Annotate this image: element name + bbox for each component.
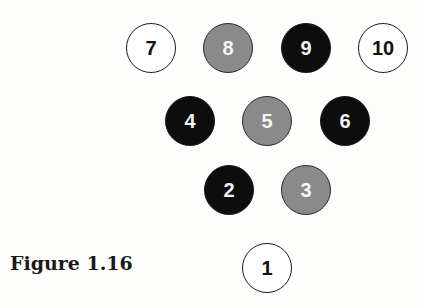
pin-label: 4: [184, 110, 195, 133]
pin-label: 2: [223, 179, 234, 202]
pin-label: 8: [222, 37, 233, 60]
pin-label: 9: [300, 37, 311, 60]
pin-8: 8: [203, 23, 253, 73]
pin-10: 10: [358, 23, 408, 73]
pin-label: 7: [145, 37, 156, 60]
figure-caption: Figure 1.16: [10, 252, 133, 274]
pin-label: 10: [372, 37, 394, 60]
pin-7: 7: [126, 23, 176, 73]
pin-3: 3: [281, 165, 331, 215]
pin-5: 5: [242, 96, 292, 146]
pin-label: 5: [261, 110, 272, 133]
pin-9: 9: [281, 23, 331, 73]
pin-label: 1: [261, 257, 272, 280]
pin-1: 1: [242, 243, 292, 293]
pin-2: 2: [204, 165, 254, 215]
pin-label: 6: [339, 110, 350, 133]
pin-4: 4: [165, 96, 215, 146]
pin-6: 6: [320, 96, 370, 146]
pin-label: 3: [300, 179, 311, 202]
